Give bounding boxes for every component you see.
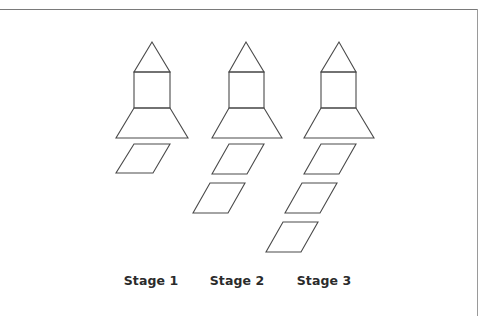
stage-2-base-trapezoid	[212, 108, 282, 138]
stage-1-rocket	[116, 42, 188, 173]
stage-2-body-square	[229, 72, 264, 108]
stage-3-base-trapezoid	[304, 108, 374, 138]
stage-2-nose-triangle	[229, 42, 264, 72]
rocket-pattern-figure	[0, 0, 479, 316]
stage-3-nose-triangle	[321, 42, 356, 72]
stage-1-label: Stage 1	[124, 273, 179, 288]
stage-3-body-square	[321, 72, 356, 108]
stage-3-rocket	[266, 42, 374, 252]
stage-3-parallelogram-3	[266, 222, 318, 252]
stage-1-base-trapezoid	[116, 108, 188, 138]
stage-3-label: Stage 3	[297, 273, 352, 288]
stage-2-parallelogram-1	[212, 144, 264, 174]
stage-1-nose-triangle	[134, 42, 170, 72]
stage-3-parallelogram-1	[304, 144, 356, 174]
stage-2-rocket	[193, 42, 282, 213]
stage-3-parallelogram-2	[285, 183, 337, 213]
stage-2-label: Stage 2	[210, 273, 265, 288]
stage-1-parallelogram-1	[116, 144, 170, 173]
stage-2-parallelogram-2	[193, 183, 245, 213]
stage-1-body-square	[134, 72, 170, 108]
